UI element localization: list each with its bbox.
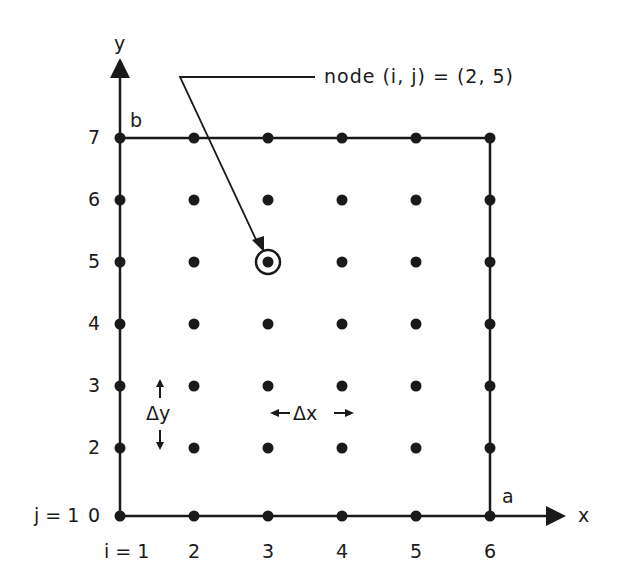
grid-node	[485, 133, 496, 144]
grid-node	[411, 257, 422, 268]
y-tick-label: 6	[88, 190, 100, 209]
grid-node	[485, 195, 496, 206]
y-tick-label: 2	[88, 438, 100, 457]
grid-node	[189, 319, 200, 330]
y-tick-label: 7	[88, 128, 100, 147]
grid-node	[263, 511, 274, 522]
grid-node	[115, 381, 126, 392]
grid-node	[189, 257, 200, 268]
grid-node	[337, 511, 348, 522]
grid-node	[263, 133, 274, 144]
y-axis-label: y	[114, 34, 125, 53]
grid-node	[485, 319, 496, 330]
delta-y-up-arrow-icon	[156, 379, 164, 387]
grid-node	[411, 195, 422, 206]
grid-node	[115, 133, 126, 144]
y-tick-label: 3	[88, 376, 100, 395]
j-index-label: j = 1	[34, 506, 79, 525]
x-axis-arrowhead-icon	[546, 506, 566, 526]
x-tick-label: 5	[410, 542, 422, 561]
grid-node	[337, 133, 348, 144]
x-tick-label: 4	[336, 542, 348, 561]
y-tick-label: 4	[88, 314, 100, 333]
x-tick-label: 6	[484, 542, 496, 561]
grid-node	[115, 319, 126, 330]
grid-node	[263, 443, 274, 454]
grid-node	[263, 319, 274, 330]
grid-node	[189, 511, 200, 522]
grid-node	[263, 257, 274, 268]
grid-node	[189, 195, 200, 206]
grid-node	[485, 511, 496, 522]
grid-node	[115, 443, 126, 454]
x-axis-label: x	[578, 506, 589, 525]
grid-diagram	[0, 0, 622, 587]
grid-node	[263, 195, 274, 206]
delta-x-label: Δx	[293, 404, 317, 423]
grid-node	[337, 195, 348, 206]
grid-node	[337, 257, 348, 268]
callout-arrowhead-icon	[252, 236, 264, 252]
grid-node	[337, 443, 348, 454]
grid-node	[189, 133, 200, 144]
y-axis-arrowhead-icon	[110, 58, 130, 78]
delta-x-left-arrow-icon	[270, 409, 279, 417]
grid-nodes	[115, 133, 496, 522]
grid-node	[485, 443, 496, 454]
x-tick-label: i = 1	[104, 542, 149, 561]
grid-node	[411, 133, 422, 144]
grid-node	[485, 381, 496, 392]
x-tick-label: 3	[262, 542, 274, 561]
delta-y-label: Δy	[146, 404, 170, 423]
grid-node	[411, 443, 422, 454]
grid-node	[411, 381, 422, 392]
grid-node	[337, 381, 348, 392]
grid-node	[189, 443, 200, 454]
grid-node	[337, 319, 348, 330]
y-tick-label: 0	[88, 506, 100, 525]
callout-leader-line	[180, 77, 315, 244]
delta-x-right-arrow-icon	[345, 409, 354, 417]
grid-node	[115, 511, 126, 522]
grid-node	[115, 257, 126, 268]
corner-label-b: b	[130, 111, 142, 130]
grid-node	[263, 381, 274, 392]
x-tick-label: 2	[188, 542, 200, 561]
corner-label-a: a	[502, 487, 514, 506]
grid-node	[411, 319, 422, 330]
grid-node	[115, 195, 126, 206]
grid-node	[485, 257, 496, 268]
grid-node	[411, 511, 422, 522]
delta-y-down-arrow-icon	[156, 442, 164, 450]
y-tick-label: 5	[88, 252, 100, 271]
callout-label: node (i, j) = (2, 5)	[324, 67, 514, 86]
grid-node	[189, 381, 200, 392]
